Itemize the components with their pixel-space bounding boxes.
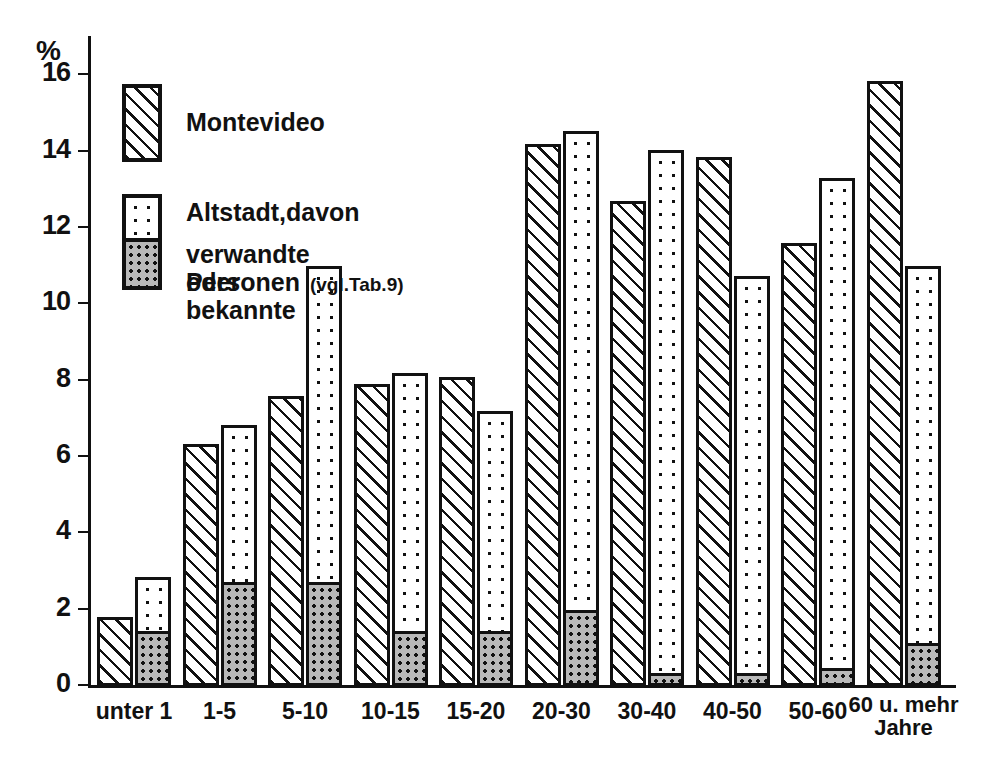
chart-figure: % 0246810121416 unter 11-55-1010-1515-20… <box>0 0 983 775</box>
legend-swatch-altstadt <box>122 194 162 290</box>
bar-altstadt <box>477 411 513 686</box>
bar-montevideo <box>97 617 133 686</box>
legend-label-verwandte-note: (vgl.Tab.9) <box>310 274 404 295</box>
y-tick-mark <box>78 379 89 381</box>
bar-altstadt <box>905 266 941 686</box>
bar-segment-verwandte-personen <box>306 582 342 686</box>
bar-altstadt <box>819 178 855 686</box>
bar-montevideo <box>354 384 390 686</box>
bar-group <box>610 36 684 686</box>
legend-swatch-montevideo <box>122 84 162 162</box>
bar-segment-verwandte-personen <box>221 582 257 686</box>
bar-segment-verwandte-personen <box>648 673 684 686</box>
y-tick-label: 4 <box>8 517 70 544</box>
bar-altstadt <box>563 131 599 686</box>
bar-montevideo <box>183 444 219 686</box>
bar-montevideo <box>781 243 817 686</box>
legend-label-verwandte-line2: Personen(vgl.Tab.9) <box>186 268 404 296</box>
bar-altstadt <box>648 150 684 686</box>
y-tick-mark <box>78 531 89 533</box>
y-tick-mark <box>78 150 89 152</box>
y-tick-label: 12 <box>8 212 70 239</box>
bar-segment-verwandte-personen <box>563 610 599 686</box>
y-tick-label: 0 <box>8 670 70 697</box>
y-tick-mark <box>78 73 89 75</box>
bar-altstadt <box>306 266 342 686</box>
y-tick-mark <box>78 302 89 304</box>
bar-altstadt <box>734 276 770 686</box>
x-axis-category-label: 60 u. mehr Jahre <box>844 694 964 740</box>
y-tick-label: 10 <box>8 288 70 315</box>
bar-altstadt <box>392 373 428 686</box>
y-tick-mark <box>78 684 89 686</box>
bar-group <box>354 36 428 686</box>
bar-group <box>525 36 599 686</box>
bar-montevideo <box>268 396 304 686</box>
y-tick-label: 8 <box>8 365 70 392</box>
legend-label-altstadt: Altstadt,davon <box>186 198 360 226</box>
bar-montevideo <box>439 377 475 686</box>
y-tick-label: 16 <box>8 59 70 86</box>
bar-group <box>696 36 770 686</box>
bar-segment-verwandte-personen <box>905 643 941 686</box>
legend-label-verwandte-personen: Personen <box>186 268 300 296</box>
bar-segment-verwandte-personen <box>819 668 855 686</box>
bar-montevideo <box>696 157 732 686</box>
y-tick-label: 6 <box>8 441 70 468</box>
legend-label-montevideo: Montevideo <box>186 108 325 136</box>
y-tick-label: 14 <box>8 136 70 163</box>
bar-segment-verwandte-personen <box>392 631 428 686</box>
bar-segment-verwandte-personen <box>477 631 513 686</box>
bar-altstadt <box>135 577 171 686</box>
bar-segment-verwandte-personen <box>135 631 171 686</box>
y-tick-mark <box>78 608 89 610</box>
legend-swatch-verwandte <box>122 238 162 290</box>
bar-segment-verwandte-personen <box>734 673 770 686</box>
y-tick-mark <box>78 226 89 228</box>
bar-montevideo <box>525 144 561 686</box>
bar-group <box>439 36 513 686</box>
bar-montevideo <box>610 201 646 686</box>
bar-group <box>867 36 941 686</box>
bar-altstadt <box>221 425 257 687</box>
bar-group <box>781 36 855 686</box>
bar-montevideo <box>867 81 903 686</box>
y-tick-mark <box>78 455 89 457</box>
y-tick-label: 2 <box>8 594 70 621</box>
